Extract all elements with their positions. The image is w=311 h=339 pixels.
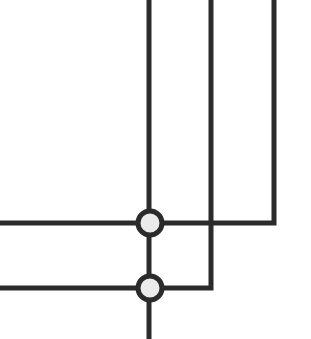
wiring-diagram bbox=[0, 0, 311, 339]
junction-node-upper bbox=[138, 211, 162, 235]
middle-line-to-lower-left bbox=[0, 0, 211, 288]
junction-node-lower bbox=[138, 276, 162, 300]
right-line-to-upper-left bbox=[0, 0, 274, 223]
